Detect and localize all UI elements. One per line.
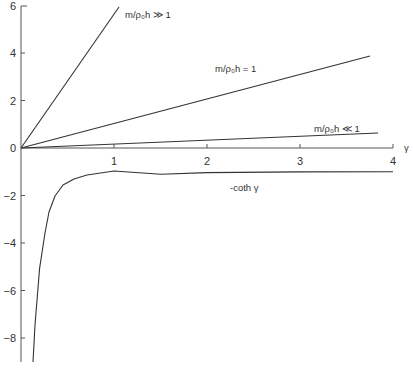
y-tick-label: −8 bbox=[3, 332, 16, 344]
y-tick-label: 0 bbox=[10, 142, 16, 154]
series-mass-equal bbox=[21, 56, 370, 148]
y-ticks bbox=[21, 6, 27, 338]
y-tick-label: −2 bbox=[3, 190, 16, 202]
x-axis-label: γ bbox=[404, 142, 409, 153]
y-tick-label: −6 bbox=[3, 285, 16, 297]
chart: 6 4 2 0 −2 −4 −6 −8 1 2 3 4 γ m/ρ₀h ≫ 1 … bbox=[0, 0, 413, 370]
series-mass-small bbox=[21, 133, 378, 148]
y-tick-label: −4 bbox=[3, 237, 16, 249]
y-tick-label: 4 bbox=[10, 47, 16, 59]
label-mass-equal: m/ρ₀h = 1 bbox=[215, 63, 256, 74]
series-mass-large bbox=[21, 7, 119, 148]
label-mass-small: m/ρ₀h ≪ 1 bbox=[314, 123, 360, 134]
x-tick-label: 2 bbox=[204, 155, 210, 167]
y-tick-label: 6 bbox=[10, 0, 16, 12]
x-ticks bbox=[114, 144, 393, 148]
x-tick-label: 1 bbox=[111, 155, 117, 167]
label-neg-coth: -coth γ bbox=[230, 182, 259, 193]
x-tick-label: 3 bbox=[297, 155, 303, 167]
label-mass-large: m/ρ₀h ≫ 1 bbox=[125, 9, 171, 20]
x-tick-label: 4 bbox=[390, 155, 396, 167]
y-tick-label: 2 bbox=[10, 95, 16, 107]
series-neg-coth bbox=[33, 171, 393, 362]
